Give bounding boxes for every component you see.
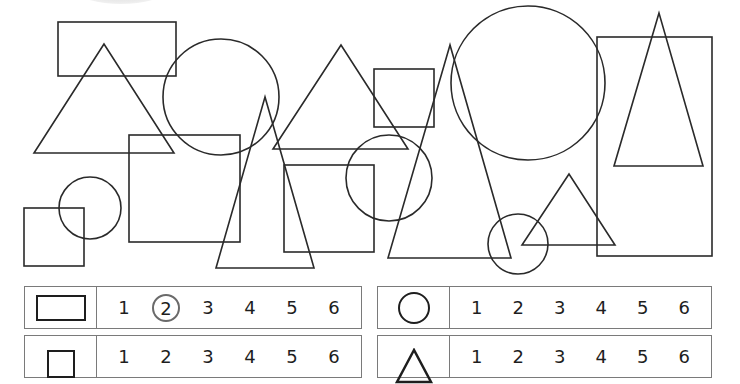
- option-circle-3[interactable]: 3: [546, 294, 574, 322]
- option-rectangle-5[interactable]: 5: [278, 294, 306, 322]
- triangle-shape: [273, 45, 408, 149]
- option-square-2[interactable]: 2: [152, 343, 180, 371]
- option-triangle-5[interactable]: 5: [629, 343, 657, 371]
- rectangle-shape: [58, 22, 176, 76]
- number-options: 123456: [450, 287, 711, 328]
- option-square-3[interactable]: 3: [194, 343, 222, 371]
- option-rectangle-1[interactable]: 1: [110, 294, 138, 322]
- circle-shape: [346, 135, 432, 221]
- triangle-icon: [378, 336, 450, 377]
- triangle-shape: [34, 44, 174, 153]
- option-triangle-1[interactable]: 1: [463, 343, 491, 371]
- answer-row-square: 123456: [24, 335, 362, 378]
- option-rectangle-2[interactable]: 2: [152, 294, 180, 322]
- option-triangle-4[interactable]: 4: [587, 343, 615, 371]
- option-square-6[interactable]: 6: [320, 343, 348, 371]
- number-options: 123456: [450, 336, 711, 377]
- rectangle-icon: [25, 287, 97, 328]
- circle-shape: [451, 6, 605, 160]
- answer-row-circle: 123456: [377, 286, 712, 329]
- circle-icon: [378, 287, 450, 328]
- option-square-1[interactable]: 1: [110, 343, 138, 371]
- option-circle-4[interactable]: 4: [587, 294, 615, 322]
- square-shape: [129, 135, 240, 242]
- circle-shape: [163, 39, 279, 155]
- option-circle-1[interactable]: 1: [463, 294, 491, 322]
- square-shape: [374, 69, 434, 127]
- option-circle-5[interactable]: 5: [629, 294, 657, 322]
- option-rectangle-3[interactable]: 3: [194, 294, 222, 322]
- option-triangle-6[interactable]: 6: [670, 343, 698, 371]
- option-rectangle-4[interactable]: 4: [236, 294, 264, 322]
- triangle-shape: [614, 13, 703, 166]
- option-circle-6[interactable]: 6: [670, 294, 698, 322]
- number-options: 123456: [97, 287, 361, 328]
- option-square-5[interactable]: 5: [278, 343, 306, 371]
- answer-row-rectangle: 123456: [24, 286, 362, 329]
- number-options: 123456: [97, 336, 361, 377]
- option-rectangle-6[interactable]: 6: [320, 294, 348, 322]
- square-icon: [25, 336, 97, 377]
- option-circle-2[interactable]: 2: [504, 294, 532, 322]
- option-triangle-2[interactable]: 2: [504, 343, 532, 371]
- rectangle-shape: [597, 37, 712, 256]
- option-square-4[interactable]: 4: [236, 343, 264, 371]
- option-triangle-3[interactable]: 3: [546, 343, 574, 371]
- circle-shape: [488, 214, 548, 274]
- square-shape: [24, 208, 84, 266]
- triangle-shape: [522, 174, 615, 245]
- answer-row-triangle: 123456: [377, 335, 712, 378]
